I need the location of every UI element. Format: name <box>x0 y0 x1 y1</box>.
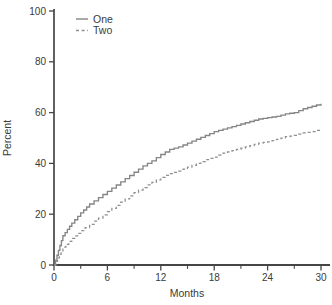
y-tick-label: 0 <box>40 260 46 271</box>
data-curves <box>54 104 321 265</box>
y-tick-label: 80 <box>35 56 47 67</box>
legend-label-two: Two <box>93 24 112 36</box>
figure: 0204060801000612182430 Percent Months On… <box>0 0 332 305</box>
x-tick-label: 12 <box>155 272 167 283</box>
x-tick-label: 6 <box>105 272 111 283</box>
series-one-line <box>54 104 321 265</box>
legend: One Two <box>76 13 113 37</box>
y-tick-label: 40 <box>35 158 47 169</box>
legend-label-one: One <box>93 13 113 25</box>
survival-chart: 0204060801000612182430 Percent Months On… <box>0 0 332 305</box>
x-tick-label: 24 <box>262 272 274 283</box>
axes <box>53 9 330 266</box>
x-tick-label: 18 <box>209 272 221 283</box>
x-tick-label: 0 <box>51 272 57 283</box>
y-axis-title: Percent <box>1 120 13 156</box>
ticks: 0204060801000612182430 <box>29 6 327 283</box>
x-tick-label: 30 <box>315 272 327 283</box>
y-tick-label: 100 <box>29 6 46 17</box>
series-two-line <box>54 129 321 265</box>
x-axis-title: Months <box>170 287 204 299</box>
y-tick-label: 20 <box>35 209 47 220</box>
y-tick-label: 60 <box>35 107 47 118</box>
